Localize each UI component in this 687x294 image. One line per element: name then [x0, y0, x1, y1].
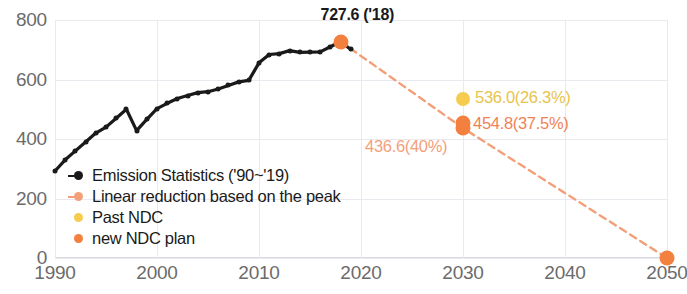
legend-item-label: Linear reduction based on the peak [92, 187, 341, 206]
emission-data-point [348, 47, 353, 52]
emissions-projection-chart: 0200400600800 19902000201020202030204020… [0, 0, 687, 294]
linear-2030-marker [456, 121, 471, 136]
emission-data-point [297, 50, 302, 55]
past-ndc-marker [456, 92, 470, 106]
legend-item[interactable]: new NDC plan [74, 228, 341, 249]
emission-data-point [236, 79, 241, 84]
emission-data-point [53, 168, 58, 173]
annotation-linear-reduction-value: 436.6(40%) [365, 137, 447, 156]
emission-data-point [185, 93, 190, 98]
emission-data-point [206, 89, 211, 94]
legend-item[interactable]: Emission Statistics ('90~'19) [74, 165, 341, 186]
net-zero-2050-marker [660, 251, 675, 266]
emission-data-point [114, 116, 119, 121]
legend-swatch-icon [74, 171, 83, 180]
chart-legend: Emission Statistics ('90~'19)Linear redu… [74, 165, 341, 249]
emission-data-point [83, 139, 88, 144]
emission-data-point [195, 90, 200, 95]
emission-data-point [93, 131, 98, 136]
peak-marker [333, 34, 348, 49]
annotation-past-ndc-value: 536.0(26.3%) [475, 87, 570, 106]
emission-data-point [318, 49, 323, 54]
annotation-peak-value: 727.6 ('18) [321, 6, 394, 24]
emission-data-point [277, 51, 282, 56]
emission-data-point [144, 117, 149, 122]
emission-data-point [124, 107, 129, 112]
legend-item[interactable]: Past NDC [74, 207, 341, 228]
legend-item-label: Emission Statistics ('90~'19) [92, 166, 289, 185]
legend-swatch-icon [74, 213, 83, 222]
emission-data-point [175, 96, 180, 101]
emission-data-point [104, 125, 109, 130]
emission-data-point [63, 157, 68, 162]
emission-statistics-line [55, 42, 351, 171]
legend-item-label: new NDC plan [92, 229, 195, 248]
emission-data-point [308, 50, 313, 55]
emission-data-point [267, 52, 272, 57]
emission-data-point [287, 48, 292, 53]
legend-item[interactable]: Linear reduction based on the peak [74, 186, 341, 207]
emission-data-point [328, 44, 333, 49]
emission-data-point [216, 87, 221, 92]
emission-data-point [257, 60, 262, 65]
legend-swatch-icon [74, 234, 83, 243]
emission-data-point [165, 101, 170, 106]
emission-data-point [246, 78, 251, 83]
legend-item-label: Past NDC [92, 208, 163, 227]
emission-data-point [73, 148, 78, 153]
emission-data-point [226, 83, 231, 88]
annotation-new-ndc-value: 454.8(37.5%) [473, 113, 568, 132]
emission-data-point [155, 106, 160, 111]
emission-data-point [134, 128, 139, 133]
legend-swatch-icon [74, 192, 83, 201]
